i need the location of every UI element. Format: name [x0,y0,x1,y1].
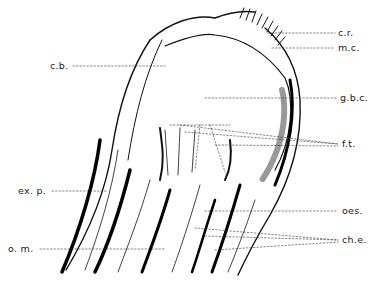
label-cr: c.r. [338,27,354,38]
label-oes: oes. [342,205,363,216]
label-mc: m.c. [338,42,360,53]
anatomical-drawing [0,0,377,281]
label-exp: ex. p. [18,185,46,196]
label-gbc: g.b.c. [340,92,368,103]
label-che: ch.e. [342,234,367,245]
label-ft: f.t. [342,138,356,149]
label-om: o. m. [8,243,33,254]
comb-ridges [240,8,285,45]
label-cb: c.b. [50,60,69,71]
outer-wall [150,11,255,40]
